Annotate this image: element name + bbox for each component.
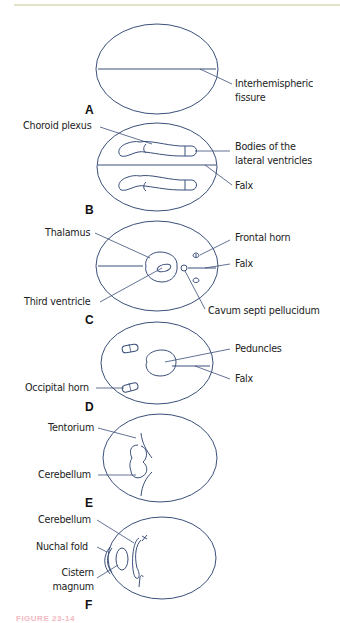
label-falx-d: Falx bbox=[235, 372, 253, 386]
panel-d-drawing bbox=[96, 322, 230, 404]
panel-c-drawing bbox=[95, 221, 230, 311]
leader-line bbox=[95, 233, 150, 258]
label-line: fissure bbox=[235, 92, 265, 103]
skull-outline bbox=[97, 123, 217, 211]
label-nuchal-fold: Nuchal fold bbox=[36, 540, 88, 554]
label-cistern-magnum: Cisternmagnum bbox=[48, 566, 94, 594]
figure-caption: FIGURE 23-14 bbox=[16, 614, 75, 623]
label-tentorium: Tentorium bbox=[48, 421, 94, 435]
frontal-horn-lower bbox=[193, 278, 199, 283]
cerebellum-marker-top bbox=[142, 535, 147, 541]
third-ventricle-shape bbox=[156, 263, 171, 273]
panel-label-a: A bbox=[85, 103, 94, 117]
panel-label-e: E bbox=[85, 496, 93, 510]
label-line: magnum bbox=[52, 581, 94, 592]
label-interhemispheric-fissure: Interhemisphericfissure bbox=[235, 77, 313, 105]
panel-label-d: D bbox=[85, 400, 94, 414]
label-occipital-horn: Occipital horn bbox=[25, 381, 89, 395]
cerebellum-shape bbox=[133, 538, 141, 578]
tentorium-lower bbox=[141, 472, 152, 496]
leader-line bbox=[165, 349, 230, 362]
label-bodies-lateral-ventricles: Bodies of thelateral ventricles bbox=[235, 140, 312, 168]
label-cerebellum-e: Cerebellum bbox=[38, 468, 91, 482]
label-falx-b: Falx bbox=[235, 179, 253, 193]
panel-a-drawing bbox=[96, 24, 232, 114]
skull-outline bbox=[108, 517, 216, 599]
leader-line bbox=[100, 268, 162, 302]
panel-label-b: B bbox=[85, 203, 94, 217]
panel-b-drawing bbox=[97, 123, 232, 211]
leader-line bbox=[97, 520, 134, 543]
skull-outline bbox=[101, 322, 213, 404]
label-line: Interhemispheric bbox=[235, 78, 313, 89]
label-thalamus: Thalamus bbox=[45, 226, 90, 240]
label-line: Cistern bbox=[62, 567, 94, 578]
label-falx-c: Falx bbox=[235, 257, 253, 271]
cavum-septi-pellucidum-shape bbox=[181, 265, 187, 271]
thalamus-shape bbox=[146, 252, 177, 282]
label-frontal-horn: Frontal horn bbox=[235, 231, 290, 245]
label-line: Bodies of the bbox=[235, 141, 296, 152]
peduncles-shape bbox=[146, 350, 176, 376]
leader-line bbox=[97, 565, 118, 578]
panel-f-drawing bbox=[97, 517, 216, 599]
leader-line bbox=[205, 165, 232, 185]
panel-label-c: C bbox=[85, 313, 94, 327]
label-cavum-septi-pellucidum: Cavum septi pellucidum bbox=[208, 304, 320, 318]
cerebellum-marker-bottom bbox=[139, 576, 143, 588]
skull-outline bbox=[103, 414, 217, 502]
label-cerebellum-f: Cerebellum bbox=[38, 513, 91, 527]
leader-line bbox=[97, 547, 107, 552]
cistern-magnum-shape bbox=[116, 548, 128, 570]
leader-line bbox=[185, 271, 205, 309]
frontal-horn-upper bbox=[193, 253, 199, 258]
cerebellum-shape bbox=[130, 445, 147, 478]
label-choroid-plexus: Choroid plexus bbox=[23, 119, 92, 133]
label-peduncles: Peduncles bbox=[235, 342, 282, 356]
label-third-ventricle: Third ventricle bbox=[24, 295, 90, 309]
panel-e-drawing bbox=[98, 414, 217, 502]
panel-label-f: F bbox=[85, 598, 92, 612]
label-line: lateral ventricles bbox=[235, 155, 312, 166]
